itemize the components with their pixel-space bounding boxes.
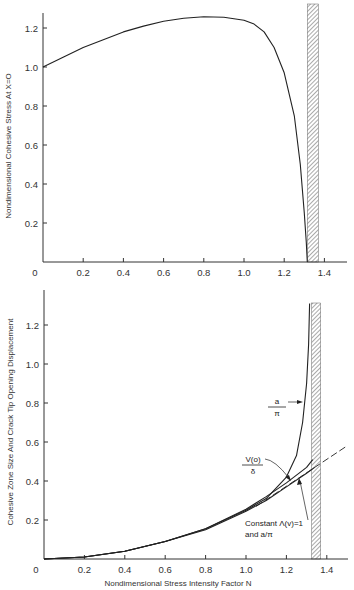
annotation-constant-line2: and a/π <box>245 530 273 539</box>
series-line <box>256 446 347 507</box>
annotation-a-label: a <box>275 397 280 406</box>
y-tick-label: 0.8 <box>26 398 39 409</box>
top-y-axis-title: Nondimensional Cohesive Stress At X=O <box>4 73 13 219</box>
x-tick-label: 0.4 <box>118 564 131 575</box>
bottom-limit-hatch <box>312 303 321 559</box>
figure: 00.20.40.60.81.01.21.4 0.20.40.60.81.01.… <box>0 0 354 590</box>
annotation-delta-label: δ <box>251 467 256 476</box>
y-tick-label: 0.8 <box>25 101 38 112</box>
x-tick-label: 1.2 <box>278 267 291 278</box>
bottom-x-ticks: 00.20.40.60.81.01.21.4 <box>33 555 333 575</box>
x-tick-label: 0.6 <box>157 267 170 278</box>
x-tick-label: 0.8 <box>197 267 210 278</box>
x-tick-label: 1.0 <box>239 564 252 575</box>
series-line <box>43 17 307 262</box>
y-tick-label: 1.2 <box>26 320 39 331</box>
annotation-v0-label: V(o) <box>245 455 260 464</box>
x-tick-label: 0 <box>33 564 38 575</box>
bottom-y-axis-title: Cohesive Zone Size And Crack Tip Opening… <box>6 318 15 526</box>
y-tick-label: 0.6 <box>26 437 39 448</box>
x-tick-label: 0.6 <box>159 564 172 575</box>
bottom-plot: 00.20.40.60.81.01.21.4 0.20.40.60.81.01.… <box>6 290 348 588</box>
x-tick-label: 1.2 <box>280 564 293 575</box>
top-series <box>43 17 307 262</box>
annotation-constant-line1: Constant Λ(v)=1 <box>245 519 304 528</box>
arrow-icon <box>297 400 303 404</box>
y-tick-label: 0.2 <box>25 218 38 229</box>
x-tick-label: 0.8 <box>199 564 212 575</box>
series-line <box>44 460 313 559</box>
y-tick-label: 1.2 <box>25 23 38 34</box>
x-tick-label: 0.2 <box>77 267 90 278</box>
top-x-ticks: 00.20.40.60.81.01.21.4 <box>32 258 331 278</box>
y-tick-label: 0.4 <box>26 476 39 487</box>
annotation-v0-over-delta: V(o) δ <box>242 455 291 481</box>
bottom-y-ticks: 0.20.40.60.81.01.2 <box>26 320 48 526</box>
bottom-x-axis-title: Nondimensional Stress Intensity Factor N <box>104 579 251 588</box>
y-tick-label: 0.4 <box>25 179 38 190</box>
series-line <box>44 467 315 559</box>
top-plot: 00.20.40.60.81.01.21.4 0.20.40.60.81.01.… <box>4 4 347 278</box>
x-tick-label: 1.4 <box>318 267 331 278</box>
x-tick-label: 0.4 <box>117 267 130 278</box>
top-limit-hatch <box>307 4 318 262</box>
annotation-a-over-pi: a π <box>268 397 303 418</box>
annotation-pi-label: π <box>274 409 280 418</box>
y-tick-label: 0.6 <box>25 140 38 151</box>
x-tick-label: 0 <box>32 267 37 278</box>
y-tick-label: 1.0 <box>26 359 39 370</box>
y-tick-label: 0.2 <box>26 515 39 526</box>
top-y-ticks: 0.20.40.60.81.01.2 <box>25 23 47 229</box>
y-tick-label: 1.0 <box>25 62 38 73</box>
x-tick-label: 1.4 <box>320 564 333 575</box>
x-tick-label: 0.2 <box>78 564 91 575</box>
x-tick-label: 1.0 <box>237 267 250 278</box>
